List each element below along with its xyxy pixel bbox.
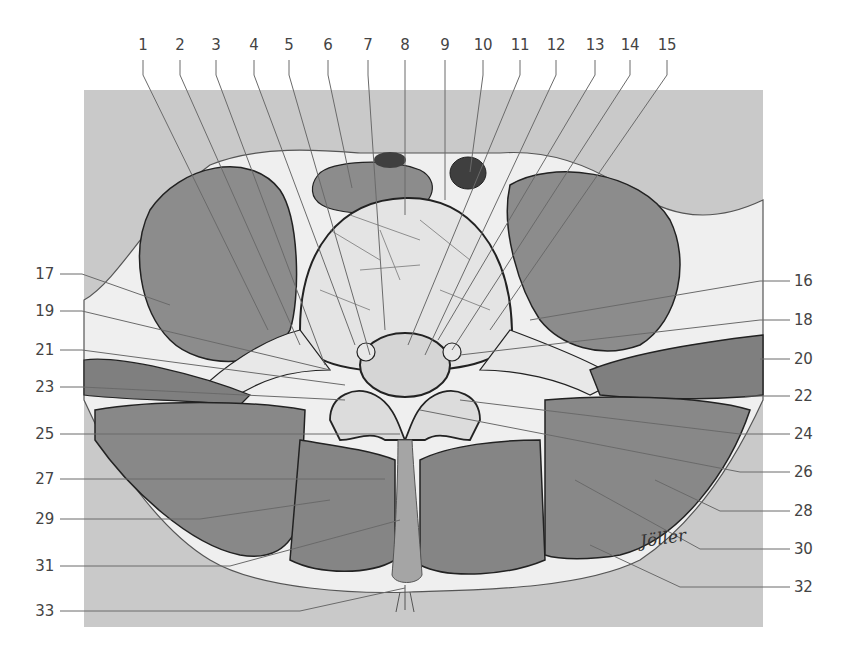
label-6: 6 bbox=[323, 37, 332, 53]
label-32: 32 bbox=[794, 579, 813, 595]
label-19: 19 bbox=[18, 303, 54, 319]
label-30: 30 bbox=[794, 541, 813, 557]
label-24: 24 bbox=[794, 426, 813, 442]
label-5: 5 bbox=[284, 37, 293, 53]
label-29: 29 bbox=[18, 511, 54, 527]
nerve-root-right bbox=[443, 343, 461, 361]
label-25: 25 bbox=[18, 426, 54, 442]
label-26: 26 bbox=[794, 464, 813, 480]
label-8: 8 bbox=[400, 37, 409, 53]
cross-section-illustration bbox=[0, 0, 855, 664]
muscle-posterior-right-medial bbox=[420, 440, 545, 574]
label-18: 18 bbox=[794, 312, 813, 328]
label-31: 31 bbox=[18, 558, 54, 574]
label-16: 16 bbox=[794, 273, 813, 289]
label-27: 27 bbox=[18, 471, 54, 487]
label-1: 1 bbox=[138, 37, 147, 53]
spinal-cord bbox=[360, 333, 450, 397]
label-12: 12 bbox=[547, 37, 566, 53]
muscle-left-lateral bbox=[140, 167, 297, 362]
label-17: 17 bbox=[18, 266, 54, 282]
label-20: 20 bbox=[794, 351, 813, 367]
anatomy-figure: 1 2 3 4 5 6 7 8 9 10 11 12 13 14 15 17 1… bbox=[0, 0, 855, 664]
label-21: 21 bbox=[18, 342, 54, 358]
label-14: 14 bbox=[621, 37, 640, 53]
label-3: 3 bbox=[211, 37, 220, 53]
label-2: 2 bbox=[175, 37, 184, 53]
nerve-root-left bbox=[357, 343, 375, 361]
label-33: 33 bbox=[18, 603, 54, 619]
label-23: 23 bbox=[18, 379, 54, 395]
label-11: 11 bbox=[511, 37, 530, 53]
label-22: 22 bbox=[794, 388, 813, 404]
label-4: 4 bbox=[249, 37, 258, 53]
label-10: 10 bbox=[474, 37, 493, 53]
label-7: 7 bbox=[363, 37, 372, 53]
label-15: 15 bbox=[658, 37, 677, 53]
label-9: 9 bbox=[440, 37, 449, 53]
label-28: 28 bbox=[794, 503, 813, 519]
label-13: 13 bbox=[586, 37, 605, 53]
muscle-posterior-left-medial bbox=[290, 440, 395, 571]
vessel-dark-right bbox=[450, 157, 486, 189]
vessel-dark-top bbox=[374, 152, 406, 168]
